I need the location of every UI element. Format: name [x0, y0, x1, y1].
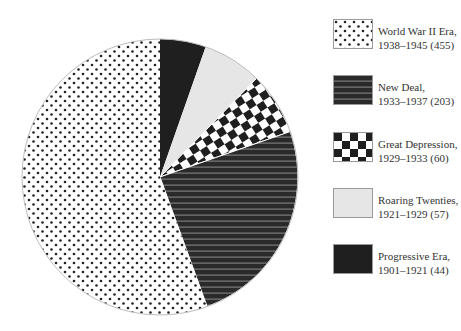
- swatch-checkerboard-icon: [333, 132, 373, 162]
- legend-item-new-deal: New Deal, 1933–1937 (203): [333, 75, 461, 107]
- legend-label-line1: Roaring Twenties,: [378, 193, 458, 207]
- legend-label-line2: 1901–1921 (44): [378, 263, 450, 277]
- legend-item-world-war-ii: World War II Era, 1938–1945 (455): [333, 19, 461, 51]
- legend-label-line2: 1933–1937 (203): [378, 94, 454, 108]
- legend-label-line1: World War II Era,: [378, 24, 457, 38]
- legend-label: Roaring Twenties, 1921–1929 (57): [378, 193, 458, 221]
- legend-label-line2: 1929–1933 (60): [378, 151, 457, 165]
- swatch-stripes-icon: [333, 75, 373, 105]
- legend-label: World War II Era, 1938–1945 (455): [378, 24, 457, 52]
- legend-label-line2: 1921–1929 (57): [378, 207, 458, 221]
- legend-label-line1: New Deal,: [378, 80, 454, 94]
- legend-item-progressive-era: Progressive Era, 1901–1921 (44): [333, 244, 461, 276]
- legend-label: Great Depression, 1929–1933 (60): [378, 137, 457, 165]
- swatch-dots-icon: [333, 19, 373, 49]
- legend-item-roaring-twenties: Roaring Twenties, 1921–1929 (57): [333, 188, 461, 220]
- legend-label-line2: 1938–1945 (455): [378, 38, 457, 52]
- swatch-light-gray-icon: [333, 188, 373, 218]
- pie-chart: [0, 0, 330, 331]
- legend-label-line1: Great Depression,: [378, 137, 457, 151]
- swatch-dark-icon: [333, 244, 373, 274]
- legend-label-line1: Progressive Era,: [378, 249, 450, 263]
- legend-item-great-depression: Great Depression, 1929–1933 (60): [333, 132, 461, 164]
- pie-slices: [22, 39, 298, 315]
- legend-label: Progressive Era, 1901–1921 (44): [378, 249, 450, 277]
- legend-label: New Deal, 1933–1937 (203): [378, 80, 454, 108]
